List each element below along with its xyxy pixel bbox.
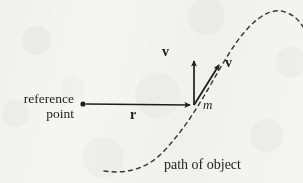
path-of-object-label: path of object bbox=[164, 157, 241, 173]
reference-point-dot bbox=[80, 101, 85, 106]
reference-point-label-line2: point bbox=[8, 106, 74, 121]
position-vector-arrow bbox=[86, 104, 190, 105]
position-vector-label: r bbox=[130, 107, 136, 123]
physics-figure: reference point r v v m path of object bbox=[0, 0, 303, 183]
reference-point-label-line1: reference bbox=[8, 91, 74, 106]
reference-point-label: reference point bbox=[8, 91, 74, 121]
mass-label: m bbox=[203, 98, 212, 113]
vertical-velocity-vector-label: v bbox=[162, 44, 169, 60]
tangential-velocity-vector-label: v bbox=[225, 55, 232, 71]
